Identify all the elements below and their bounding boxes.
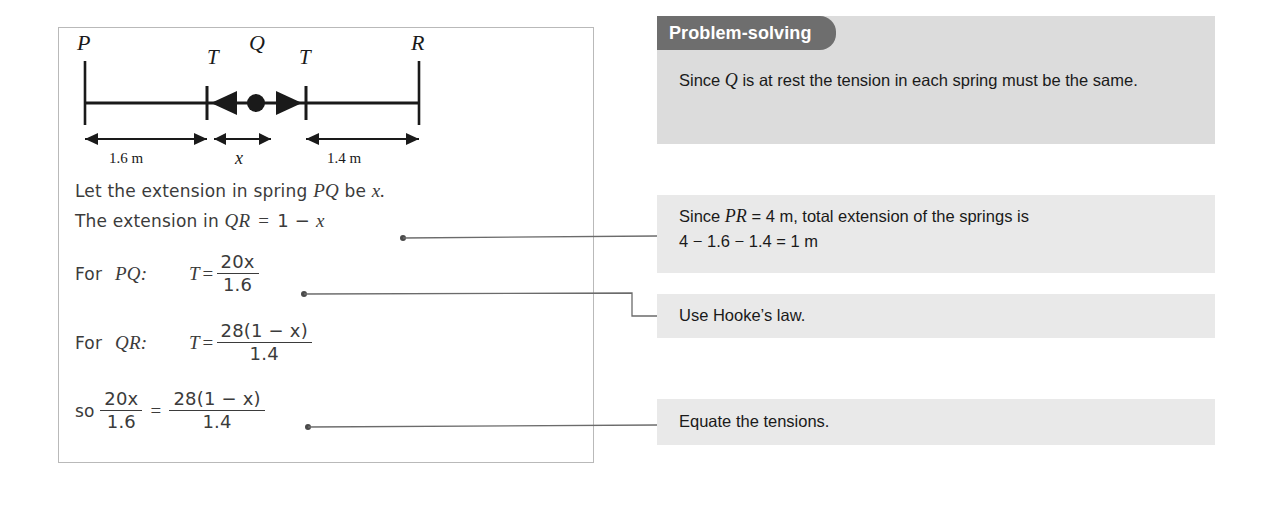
pr-total-text: Since PR = 4 m, total extension of the s…: [657, 195, 1215, 265]
diagram-label-p: P: [76, 30, 90, 55]
tension-arrow-left: [211, 91, 237, 115]
so-lhs-fraction: 20x 1.6: [100, 389, 142, 432]
for-pq-numerator: 20x: [217, 252, 259, 274]
for-pq-t: T: [189, 263, 200, 284]
for-pq-label: For: [75, 264, 115, 284]
hookes-law-text: Use Hooke’s law.: [657, 294, 1215, 328]
for-pq-denominator: 1.6: [217, 274, 259, 295]
diagram-label-tension-left: T: [207, 45, 220, 69]
solution-line-equated: so 20x 1.6 = 28(1 − x) 1.4: [75, 390, 265, 433]
so-rhs-denominator: 1.4: [169, 411, 264, 432]
for-qr-pair: QR:: [115, 332, 189, 354]
pr-total-line2: 4 − 1.6 − 1.4 = 1 m: [679, 232, 818, 250]
dimension-arrow-right-start: [306, 133, 319, 145]
let-extension-x: x.: [372, 180, 385, 201]
hint-column: Since Q is at rest the tension in each s…: [657, 0, 1217, 509]
diagram-label-q: Q: [249, 30, 265, 55]
problem-solving-pre: Since: [679, 71, 725, 89]
let-extension-pq: PQ: [313, 180, 339, 201]
solution-line-extension-qr: The extension in QR = 1 − x: [75, 210, 324, 232]
let-extension-post: be: [339, 181, 372, 201]
pr-total-extension-box: Since PR = 4 m, total extension of the s…: [657, 195, 1215, 273]
for-qr-numerator: 28(1 − x): [217, 321, 312, 343]
so-eq: =: [142, 400, 169, 421]
pr-total-var: PR: [725, 206, 747, 226]
for-qr-label: For: [75, 333, 115, 353]
dimension-label-middle: x: [234, 148, 243, 168]
problem-solving-var: Q: [725, 70, 738, 90]
for-qr-eq: =: [200, 332, 217, 353]
problem-solving-tab-label: Problem-solving: [669, 23, 812, 43]
equate-tensions-text: Equate the tensions.: [657, 399, 1215, 434]
problem-solving-tab: Problem-solving: [657, 16, 836, 50]
particle-q-dot: [247, 94, 265, 112]
for-qr-t: T: [189, 332, 200, 353]
for-pq-fraction: 20x 1.6: [217, 252, 259, 295]
for-qr-fraction: 28(1 − x) 1.4: [217, 321, 312, 364]
ext-qr-pre: The extension in: [75, 211, 225, 231]
ext-qr-var: QR: [225, 210, 251, 231]
ext-qr-val: 1 −: [277, 210, 316, 231]
tension-arrow-right: [276, 91, 302, 115]
for-qr-denominator: 1.4: [217, 343, 312, 364]
ext-qr-x: x: [316, 210, 324, 231]
dimension-label-right: 1.4 m: [327, 150, 362, 166]
dimension-arrow-middle-start: [214, 133, 226, 145]
spring-force-diagram: P Q R T T 1.6 m x 1.4 m: [59, 28, 595, 178]
so-lhs-numerator: 20x: [100, 389, 142, 411]
hookes-law-box: Use Hooke’s law.: [657, 294, 1215, 338]
pr-total-pre: Since: [679, 207, 725, 225]
for-pq-eq: =: [200, 263, 217, 284]
problem-solving-post: is at rest the tension in each spring mu…: [738, 71, 1138, 89]
worked-solution-panel: P Q R T T 1.6 m x 1.4 m Let the extensio…: [58, 27, 594, 463]
solution-line-let-extension: Let the extension in spring PQ be x.: [75, 180, 385, 202]
solution-line-for-qr: ForQR:T= 28(1 − x) 1.4: [75, 322, 312, 365]
so-rhs-fraction: 28(1 − x) 1.4: [169, 389, 264, 432]
dimension-arrow-left-end: [194, 133, 207, 145]
dimension-arrow-right-end: [406, 133, 419, 145]
so-label: so: [75, 401, 95, 421]
so-lhs-denominator: 1.6: [100, 411, 142, 432]
so-rhs-numerator: 28(1 − x): [169, 389, 264, 411]
diagram-label-tension-right: T: [299, 45, 312, 69]
dimension-arrow-left-start: [85, 133, 98, 145]
dimension-label-left: 1.6 m: [109, 150, 144, 166]
dimension-arrow-middle-end: [259, 133, 271, 145]
solution-line-for-pq: ForPQ:T= 20x 1.6: [75, 253, 259, 296]
for-pq-pair: PQ:: [115, 263, 189, 285]
equate-tensions-box: Equate the tensions.: [657, 399, 1215, 445]
diagram-label-r: R: [410, 30, 425, 55]
let-extension-pre: Let the extension in spring: [75, 181, 313, 201]
ext-qr-eq: =: [250, 210, 277, 231]
pr-total-post: = 4 m, total extension of the springs is: [747, 207, 1029, 225]
